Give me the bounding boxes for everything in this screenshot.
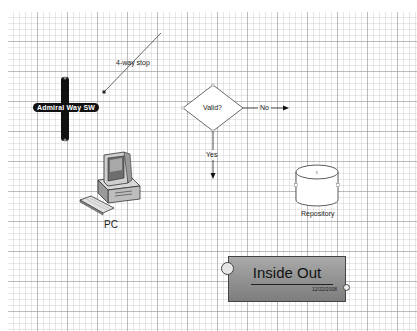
title-block-left-circle-icon <box>221 262 234 275</box>
title-block-connection-point-icon[interactable] <box>343 284 350 291</box>
title-block-shape[interactable]: Inside Out 12/22/2008 <box>228 256 346 302</box>
computer-label: PC <box>104 219 118 230</box>
computer-icon[interactable] <box>80 152 140 215</box>
title-block-date: 12/22/2008 <box>312 286 337 292</box>
title-block-underline <box>251 284 333 285</box>
no-label: No <box>260 104 269 111</box>
yes-label: Yes <box>206 151 217 158</box>
connector-endpoint-handle <box>103 91 106 94</box>
decision-label: Valid? <box>203 104 222 111</box>
connector-label: 4-way stop <box>116 59 150 66</box>
database-label: Repository <box>301 210 334 217</box>
title-block-title: Inside Out <box>229 264 345 281</box>
database-cylinder-icon[interactable]: x <box>295 165 340 206</box>
diagram-shapes-layer: x <box>0 0 417 331</box>
street-sign-label[interactable]: Admiral Way SW <box>33 103 99 112</box>
